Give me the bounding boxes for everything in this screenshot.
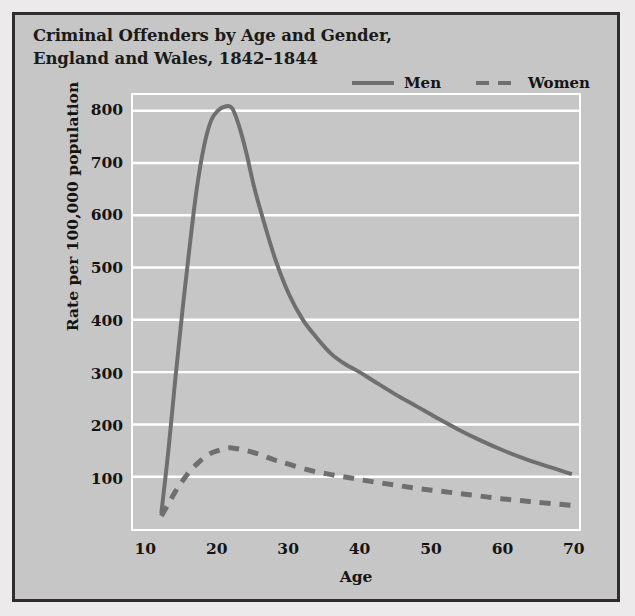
- x-tick-40: 40: [330, 539, 390, 558]
- x-tick-50: 50: [401, 539, 461, 558]
- y-axis-title: Rate per 100,000 population: [63, 62, 82, 352]
- plot-svg: [133, 95, 579, 529]
- plot-area: [131, 93, 581, 531]
- x-tick-60: 60: [472, 539, 532, 558]
- series-lines: [161, 106, 572, 516]
- x-tick-70: 70: [544, 539, 604, 558]
- series-line-women: [161, 448, 572, 516]
- x-tick-20: 20: [187, 539, 247, 558]
- chart-figure: Criminal Offenders by Age and Gender, En…: [12, 12, 620, 602]
- x-tick-30: 30: [258, 539, 318, 558]
- x-axis-title: Age: [131, 567, 581, 586]
- x-tick-10: 10: [115, 539, 175, 558]
- series-line-men: [161, 106, 572, 513]
